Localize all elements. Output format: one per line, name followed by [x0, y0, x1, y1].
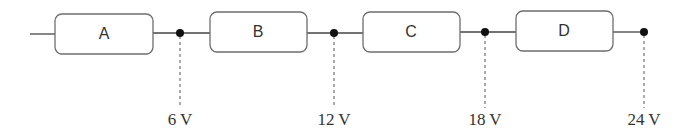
- component-c: C: [363, 12, 460, 52]
- voltage-label-3: 18 V: [468, 110, 502, 129]
- voltage-label-2: 12 V: [317, 110, 351, 129]
- voltage-label-4: 24 V: [627, 110, 661, 129]
- component-d: D: [516, 11, 613, 51]
- component-label: C: [405, 23, 417, 40]
- junction-node-3: [481, 28, 489, 36]
- component-label: A: [99, 25, 110, 42]
- component-label: B: [253, 23, 264, 40]
- component-a: A: [55, 14, 153, 54]
- component-label: D: [558, 22, 570, 39]
- junction-node-1: [176, 29, 184, 37]
- component-b: B: [210, 12, 307, 52]
- voltage-label-1: 6 V: [168, 110, 193, 129]
- junction-node-2: [330, 29, 338, 37]
- series-circuit-diagram: A B C D 6 V 12 V 18 V 24 V: [0, 0, 683, 133]
- junction-node-4: [640, 28, 648, 36]
